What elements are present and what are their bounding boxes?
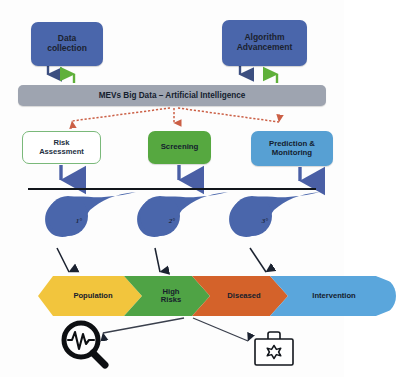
timeline-axis xyxy=(28,188,316,190)
arrow-banner-to-prediction xyxy=(178,108,279,122)
node-risk-assessment[interactable]: RiskAssessment xyxy=(22,131,101,164)
node-label: Prediction &Monitoring xyxy=(269,140,315,158)
prevention-level-label: 3° xyxy=(210,217,320,225)
population-funnel: Population HighRisks Diseased Interventi… xyxy=(38,276,328,316)
node-prediction-monitoring[interactable]: Prediction &Monitoring xyxy=(251,131,333,166)
magnifier-heartbeat-icon[interactable] xyxy=(64,323,105,365)
node-data-collection[interactable]: Datacollection xyxy=(31,22,103,66)
node-screening[interactable]: Screening xyxy=(148,131,211,164)
arrow-diseased-to-medical-kit xyxy=(193,318,248,341)
stage-population[interactable]: Population xyxy=(38,276,142,316)
node-algorithm-advancement[interactable]: AlgorithmAdvancement xyxy=(222,20,307,66)
stage-label: HighRisks xyxy=(161,288,181,305)
stage-label: Diseased xyxy=(227,292,260,301)
arrow-diseased-to-magnifier xyxy=(103,318,184,333)
stage-intervention[interactable]: Intervention xyxy=(270,276,396,316)
arrow-banner-to-risk xyxy=(72,108,170,121)
node-label: RiskAssessment xyxy=(39,139,84,156)
banner-label: MEVs Big Data – Artificial Intelligence xyxy=(99,91,246,100)
node-label: Screening xyxy=(161,143,199,152)
node-label: Datacollection xyxy=(47,34,87,54)
node-mev-big-data-banner[interactable]: MEVs Big Data – Artificial Intelligence xyxy=(18,85,326,106)
stage-label: Population xyxy=(73,292,112,301)
stage-label: Intervention xyxy=(312,292,355,301)
medical-briefcase-icon[interactable] xyxy=(255,332,293,365)
node-label: AlgorithmAdvancement xyxy=(237,33,293,53)
prevention-level-tertiary[interactable]: 3° xyxy=(228,190,320,252)
